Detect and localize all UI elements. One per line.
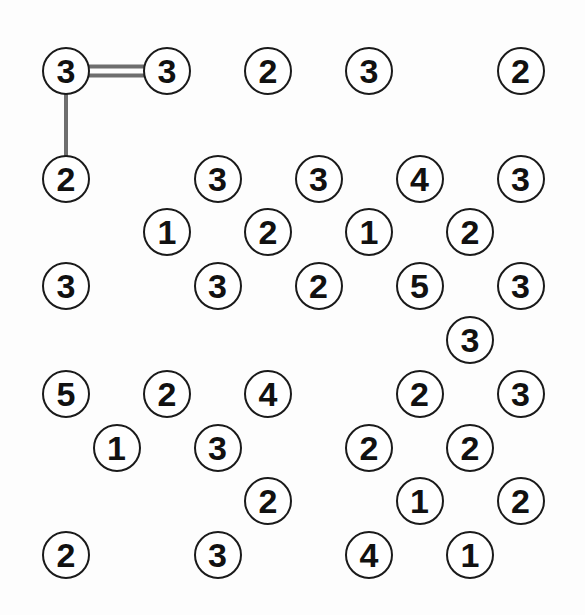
- island-value: 5: [410, 269, 429, 303]
- island-r0c2[interactable]: 3: [143, 47, 191, 95]
- island-value: 2: [309, 269, 328, 303]
- island-r6c2[interactable]: 2: [143, 370, 191, 418]
- island-layer: 332322334312123325335242313222122341: [0, 0, 585, 615]
- island-value: 2: [461, 215, 480, 249]
- island-value: 2: [511, 484, 530, 518]
- island-r3c2[interactable]: 1: [143, 208, 191, 256]
- island-value: 2: [259, 215, 278, 249]
- island-r6c4[interactable]: 4: [244, 370, 292, 418]
- island-value: 3: [57, 54, 76, 88]
- island-r7c1[interactable]: 1: [93, 424, 141, 472]
- island-value: 2: [57, 162, 76, 196]
- island-r6c0[interactable]: 5: [42, 370, 90, 418]
- island-r4c9[interactable]: 3: [497, 262, 545, 310]
- island-r7c3[interactable]: 3: [194, 424, 242, 472]
- hashiwokakero-board[interactable]: 332322334312123325335242313222122341: [0, 0, 585, 615]
- island-value: 1: [360, 215, 379, 249]
- island-r7c8[interactable]: 2: [446, 424, 494, 472]
- island-value: 3: [309, 162, 328, 196]
- island-value: 3: [461, 323, 480, 357]
- island-r0c4[interactable]: 2: [244, 47, 292, 95]
- island-r6c7[interactable]: 2: [396, 370, 444, 418]
- island-r2c9[interactable]: 3: [497, 155, 545, 203]
- island-value: 3: [511, 162, 530, 196]
- island-value: 4: [410, 162, 429, 196]
- island-value: 3: [208, 162, 227, 196]
- island-value: 2: [410, 377, 429, 411]
- island-r4c0[interactable]: 3: [42, 262, 90, 310]
- island-r9c3[interactable]: 3: [194, 531, 242, 579]
- island-value: 5: [57, 377, 76, 411]
- island-value: 1: [158, 215, 177, 249]
- island-value: 3: [208, 538, 227, 572]
- island-value: 3: [208, 431, 227, 465]
- island-r9c0[interactable]: 2: [42, 531, 90, 579]
- island-r9c6[interactable]: 4: [345, 531, 393, 579]
- island-r6c9[interactable]: 3: [497, 370, 545, 418]
- island-value: 3: [511, 377, 530, 411]
- island-value: 2: [461, 431, 480, 465]
- island-value: 2: [259, 484, 278, 518]
- island-r3c6[interactable]: 1: [345, 208, 393, 256]
- island-r8c7[interactable]: 1: [396, 477, 444, 525]
- island-r3c8[interactable]: 2: [446, 208, 494, 256]
- island-value: 4: [360, 538, 379, 572]
- island-r0c0[interactable]: 3: [42, 47, 90, 95]
- island-value: 1: [107, 431, 126, 465]
- island-value: 2: [57, 538, 76, 572]
- island-r0c6[interactable]: 3: [345, 47, 393, 95]
- island-r9c8[interactable]: 1: [446, 531, 494, 579]
- island-value: 3: [57, 269, 76, 303]
- island-r8c9[interactable]: 2: [497, 477, 545, 525]
- island-r0c9[interactable]: 2: [497, 47, 545, 95]
- island-value: 3: [208, 269, 227, 303]
- island-value: 2: [511, 54, 530, 88]
- island-r2c5[interactable]: 3: [295, 155, 343, 203]
- island-value: 2: [158, 377, 177, 411]
- island-value: 4: [259, 377, 278, 411]
- island-value: 3: [158, 54, 177, 88]
- island-value: 2: [360, 431, 379, 465]
- island-r7c6[interactable]: 2: [345, 424, 393, 472]
- island-value: 3: [511, 269, 530, 303]
- island-r4c7[interactable]: 5: [396, 262, 444, 310]
- island-r2c7[interactable]: 4: [396, 155, 444, 203]
- island-r3c4[interactable]: 2: [244, 208, 292, 256]
- island-value: 1: [410, 484, 429, 518]
- island-r5c8[interactable]: 3: [446, 316, 494, 364]
- island-r2c0[interactable]: 2: [42, 155, 90, 203]
- island-r8c4[interactable]: 2: [244, 477, 292, 525]
- island-value: 3: [360, 54, 379, 88]
- island-r4c3[interactable]: 3: [194, 262, 242, 310]
- island-r2c3[interactable]: 3: [194, 155, 242, 203]
- island-value: 2: [259, 54, 278, 88]
- island-value: 1: [461, 538, 480, 572]
- island-r4c5[interactable]: 2: [295, 262, 343, 310]
